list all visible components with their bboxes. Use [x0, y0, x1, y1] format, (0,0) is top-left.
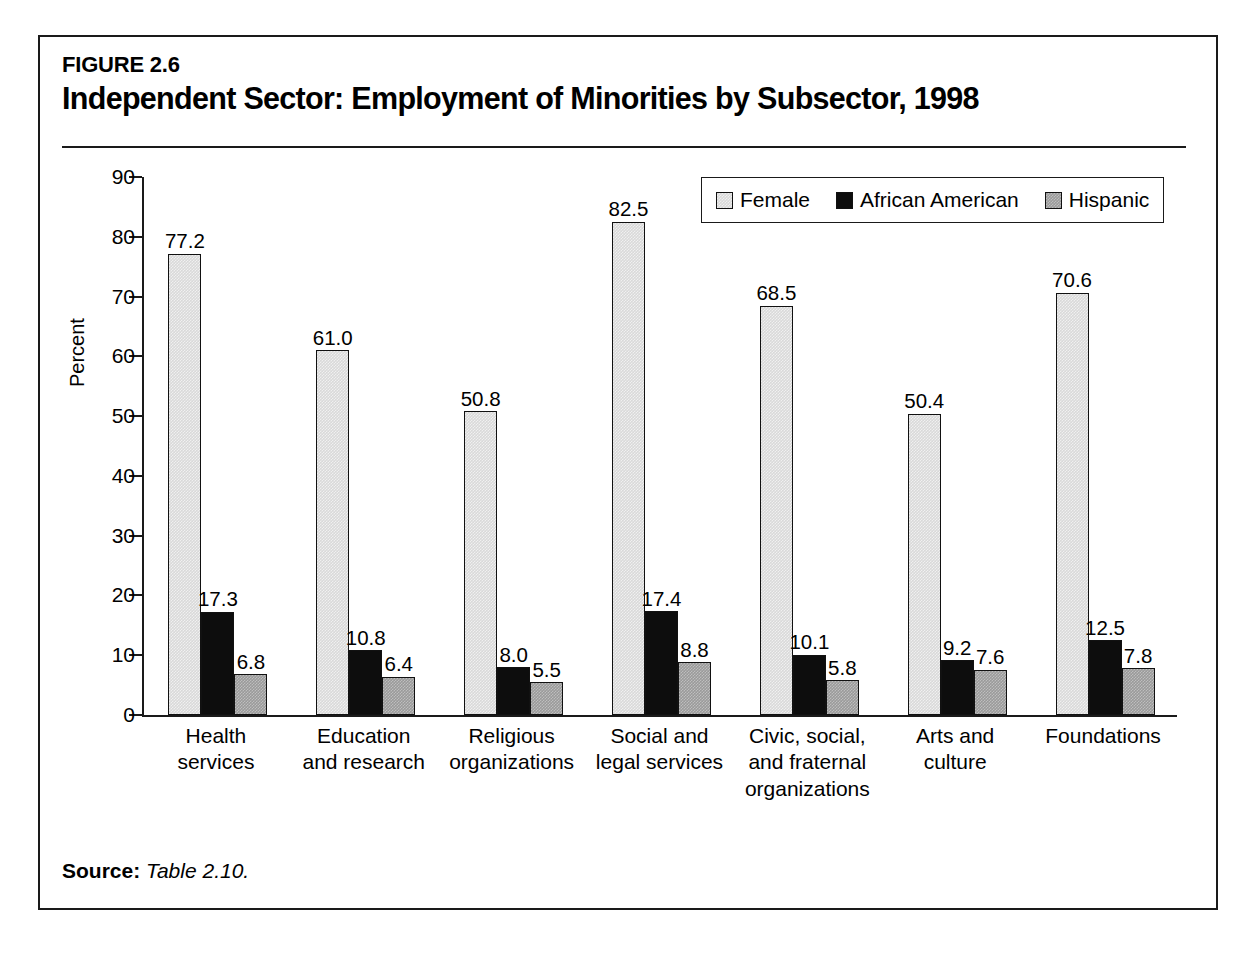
bar-group: 70.612.57.8 [1031, 177, 1179, 715]
plot-area: 0102030405060708090 77.217.36.861.010.86… [142, 177, 1177, 715]
x-axis-category-line: Arts and [881, 723, 1029, 749]
bar-value-label: 50.8 [461, 389, 501, 410]
figure-header: FIGURE 2.6 Independent Sector: Employmen… [62, 53, 1192, 116]
figure-title: Independent Sector: Employment of Minori… [62, 81, 1192, 116]
bar-value-label: 77.2 [165, 231, 205, 252]
bar-value-label: 12.5 [1085, 618, 1125, 639]
y-axis-tick-label: 20 [112, 583, 135, 607]
bar[interactable]: 9.2 [941, 660, 974, 715]
x-axis-category-labels: HealthservicesEducationand researchRelig… [142, 723, 1177, 843]
bar-group: 68.510.15.8 [735, 177, 883, 715]
bar-value-label: 9.2 [943, 638, 972, 659]
bar-group: 50.49.27.6 [883, 177, 1031, 715]
legend-label: Female [740, 188, 810, 212]
x-axis-category-label: Social andlegal services [586, 723, 734, 776]
bar-value-label: 68.5 [756, 283, 796, 304]
bar[interactable]: 6.8 [234, 674, 267, 715]
bar[interactable]: 70.6 [1056, 293, 1089, 715]
bar-value-label: 6.4 [385, 654, 414, 675]
x-axis-category-label: Healthservices [142, 723, 290, 776]
bar-value-label: 5.8 [828, 658, 857, 679]
legend-item[interactable]: Hispanic [1045, 188, 1150, 212]
bar[interactable]: 61.0 [316, 350, 349, 715]
bar-value-label: 61.0 [313, 328, 353, 349]
x-axis-category-label: Arts andculture [881, 723, 1029, 776]
x-axis-category-label: Foundations [1029, 723, 1177, 749]
bar-value-label: 82.5 [609, 199, 649, 220]
bar[interactable]: 8.0 [497, 667, 530, 715]
legend-item[interactable]: African American [836, 188, 1019, 212]
bar[interactable]: 7.6 [974, 670, 1007, 715]
y-axis-tick-label: 80 [112, 225, 135, 249]
bar[interactable]: 77.2 [168, 254, 201, 715]
y-axis-tick-label: 10 [112, 643, 135, 667]
bar-value-label: 7.6 [976, 647, 1005, 668]
bar[interactable]: 50.4 [908, 414, 941, 715]
bar[interactable]: 17.3 [201, 612, 234, 715]
y-axis-tick-label: 0 [123, 703, 135, 727]
bar[interactable]: 5.5 [530, 682, 563, 715]
bar-value-label: 6.8 [237, 652, 266, 673]
y-axis-tick-label: 60 [112, 344, 135, 368]
bar[interactable]: 5.8 [826, 680, 859, 715]
bar[interactable]: 7.8 [1122, 668, 1155, 715]
bar-group: 77.217.36.8 [144, 177, 292, 715]
y-axis-tick-label: 30 [112, 524, 135, 548]
bar[interactable]: 17.4 [645, 611, 678, 715]
bar[interactable]: 10.8 [349, 650, 382, 715]
bar-value-label: 70.6 [1052, 270, 1092, 291]
x-axis-category-line: Social and [586, 723, 734, 749]
source-text: Table 2.10. [146, 859, 249, 882]
legend-swatch-icon [716, 192, 733, 209]
bar-group: 82.517.48.8 [588, 177, 736, 715]
x-axis-category-label: Civic, social,and fraternalorganizations [733, 723, 881, 802]
bar[interactable]: 68.5 [760, 306, 793, 715]
x-axis-category-line: organizations [438, 749, 586, 775]
source-label: Source: [62, 859, 140, 882]
y-axis-tick-label: 50 [112, 404, 135, 428]
y-axis-tick-label: 40 [112, 464, 135, 488]
x-axis-category-line: services [142, 749, 290, 775]
bar-value-label: 7.8 [1124, 646, 1153, 667]
x-axis-category-line: Health [142, 723, 290, 749]
legend-label: African American [860, 188, 1019, 212]
bar[interactable]: 12.5 [1089, 640, 1122, 715]
x-axis-category-label: Educationand research [290, 723, 438, 776]
title-divider [62, 146, 1186, 148]
bar-value-label: 10.8 [346, 628, 386, 649]
x-axis-category-label: Religiousorganizations [438, 723, 586, 776]
bar-value-label: 8.8 [680, 640, 709, 661]
x-axis-category-line: organizations [733, 776, 881, 802]
x-axis-category-line: legal services [586, 749, 734, 775]
x-axis-category-line: Civic, social, [733, 723, 881, 749]
bar-value-label: 17.4 [642, 589, 682, 610]
bars-layer: 77.217.36.861.010.86.450.88.05.582.517.4… [144, 177, 1177, 715]
legend-swatch-icon [836, 192, 853, 209]
bar-value-label: 50.4 [904, 391, 944, 412]
bar-group: 50.88.05.5 [440, 177, 588, 715]
x-axis-category-line: culture [881, 749, 1029, 775]
bar[interactable]: 6.4 [382, 677, 415, 715]
source-note: Source: Table 2.10. [62, 859, 249, 883]
x-axis-category-line: and fraternal [733, 749, 881, 775]
x-axis-line [142, 715, 1177, 717]
figure-frame: FIGURE 2.6 Independent Sector: Employmen… [38, 35, 1218, 910]
x-axis-category-line: Education [290, 723, 438, 749]
legend-item[interactable]: Female [716, 188, 810, 212]
x-axis-category-line: and research [290, 749, 438, 775]
bar[interactable]: 10.1 [793, 655, 826, 715]
bar-value-label: 17.3 [198, 589, 238, 610]
bar[interactable]: 50.8 [464, 411, 497, 715]
bar-value-label: 10.1 [789, 632, 829, 653]
y-axis-tick-label: 90 [112, 165, 135, 189]
y-axis-tick-label: 70 [112, 285, 135, 309]
x-axis-category-line: Foundations [1029, 723, 1177, 749]
legend-swatch-icon [1045, 192, 1062, 209]
bar[interactable]: 82.5 [612, 222, 645, 715]
bar-value-label: 8.0 [499, 645, 528, 666]
bar-value-label: 5.5 [532, 660, 561, 681]
bar[interactable]: 8.8 [678, 662, 711, 715]
y-axis-title: Percent [66, 318, 89, 387]
figure-number: FIGURE 2.6 [62, 53, 1192, 77]
bar-group: 61.010.86.4 [292, 177, 440, 715]
